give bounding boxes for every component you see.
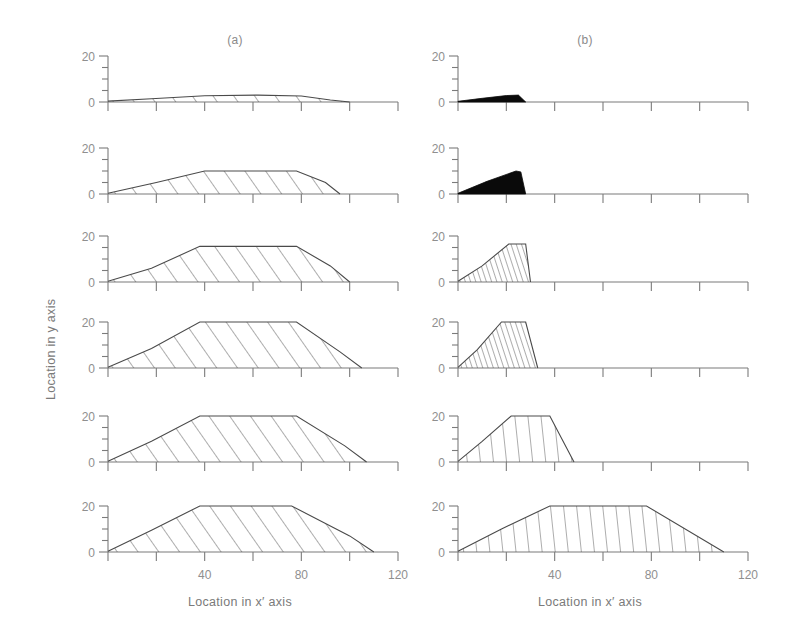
y-tick-label: 0	[438, 546, 445, 560]
y-tick-label: 20	[432, 230, 446, 244]
subplot-b-row5: 020	[432, 410, 748, 472]
y-tick-label: 0	[438, 362, 445, 376]
y-tick-label: 20	[82, 230, 96, 244]
y-tick-label: 20	[432, 316, 446, 330]
profile-shape	[458, 95, 526, 102]
profile-hatch-fill	[108, 506, 374, 552]
figure-canvas: (a) (b) Location in y axis Location in x…	[0, 0, 796, 640]
y-tick-label: 0	[88, 188, 95, 202]
y-tick-label: 20	[432, 410, 446, 424]
x-tick-label: 120	[738, 568, 758, 582]
profile-hatch-fill	[108, 322, 362, 368]
y-tick-label: 0	[438, 456, 445, 470]
subplot-a-row5: 020	[82, 410, 398, 472]
x-tick-label: 40	[548, 568, 562, 582]
y-tick-label: 20	[82, 142, 96, 156]
subplot-a-row6: 0204080120	[82, 500, 409, 583]
subplot-a-row4: 020	[82, 316, 398, 378]
y-tick-label: 20	[82, 316, 96, 330]
subplot-b-row2: 020	[432, 142, 748, 204]
y-tick-label: 20	[432, 50, 446, 64]
y-tick-label: 20	[82, 500, 96, 514]
y-tick-label: 0	[88, 276, 95, 290]
profile-hatch-fill	[458, 244, 531, 282]
profile-hatch-fill	[458, 506, 724, 552]
y-tick-label: 20	[432, 500, 446, 514]
y-tick-label: 20	[82, 410, 96, 424]
profile-hatch-fill	[458, 322, 538, 368]
y-tick-label: 0	[88, 456, 95, 470]
y-tick-label: 20	[432, 142, 446, 156]
profile-hatch-fill	[108, 246, 350, 282]
y-tick-label: 0	[438, 276, 445, 290]
subplot-b-row4: 020	[432, 316, 748, 378]
subplot-a-row1: 020	[82, 50, 398, 112]
subplot-a-row2: 020	[82, 142, 398, 204]
y-tick-label: 0	[88, 96, 95, 110]
y-tick-label: 0	[88, 362, 95, 376]
subplot-b-row1: 020	[432, 50, 748, 112]
y-tick-label: 0	[438, 188, 445, 202]
profile-hatch-fill	[108, 416, 367, 462]
y-tick-label: 0	[88, 546, 95, 560]
x-tick-label: 80	[295, 568, 309, 582]
plots-svg: 0200200200200200204080120020020020020020…	[0, 0, 796, 640]
subplot-b-row6: 0204080120	[432, 500, 759, 583]
subplot-b-row3: 020	[432, 230, 748, 292]
profile-shape	[458, 171, 526, 194]
y-tick-label: 0	[438, 96, 445, 110]
profile-hatch-fill	[108, 95, 350, 102]
x-tick-label: 80	[645, 568, 659, 582]
x-tick-label: 120	[388, 568, 408, 582]
profile-hatch-fill	[458, 416, 574, 462]
subplot-a-row3: 020	[82, 230, 398, 292]
x-tick-label: 40	[198, 568, 212, 582]
y-tick-label: 20	[82, 50, 96, 64]
